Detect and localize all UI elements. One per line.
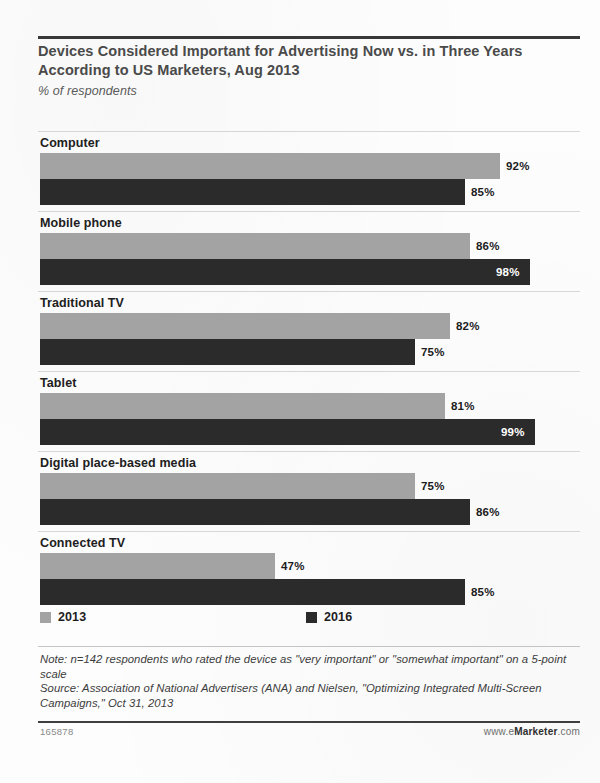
- group-divider: [38, 531, 580, 532]
- chart-group: Connected TV47%85%: [38, 531, 580, 611]
- category-label: Mobile phone: [38, 212, 580, 233]
- bar-2013: [40, 313, 450, 339]
- group-divider: [38, 451, 580, 452]
- bar-group: 81%99%: [38, 393, 580, 451]
- bar-row: 47%: [38, 553, 580, 579]
- chart-title: Devices Considered Important for Adverti…: [38, 42, 580, 79]
- bar-value-label: 92%: [506, 153, 530, 179]
- bar-value-label: 86%: [476, 499, 500, 525]
- chart-plot-area: Computer92%85%Mobile phone86%98%Traditio…: [38, 131, 580, 611]
- bar-value-label: 75%: [421, 473, 445, 499]
- category-label: Tablet: [38, 372, 580, 393]
- bar-row: 99%: [38, 419, 580, 445]
- legend-item-2016: 2016: [306, 610, 352, 624]
- bar-row: 81%: [38, 393, 580, 419]
- bar-row: 85%: [38, 579, 580, 605]
- footer: 165878 www.eMarketer.com: [38, 726, 580, 744]
- bar-group: 86%98%: [38, 233, 580, 291]
- category-label: Traditional TV: [38, 292, 580, 313]
- brand-name: Marketer: [514, 726, 557, 737]
- bar-row: 75%: [38, 339, 580, 365]
- group-divider: [38, 291, 580, 292]
- bar-row: 92%: [38, 153, 580, 179]
- bar-2016: [40, 339, 415, 365]
- bar-value-label: 86%: [476, 233, 500, 259]
- bar-2016: [40, 499, 470, 525]
- bar-2013: [40, 153, 500, 179]
- bar-value-label: 47%: [281, 553, 305, 579]
- group-divider: [38, 131, 580, 132]
- brand-suffix: .com: [558, 726, 580, 737]
- chart-sheet: Devices Considered Important for Adverti…: [38, 0, 580, 783]
- bar-group: 92%85%: [38, 153, 580, 211]
- source-text: Source: Association of National Advertis…: [40, 681, 580, 710]
- bar-2016: [40, 419, 535, 445]
- bar-2013: [40, 553, 275, 579]
- bar-value-label: 75%: [421, 339, 445, 365]
- category-label: Digital place-based media: [38, 452, 580, 473]
- chart-group: Computer92%85%: [38, 131, 580, 211]
- notes-divider: [38, 646, 580, 647]
- bar-row: 98%: [38, 259, 580, 285]
- bar-value-label: 85%: [471, 579, 495, 605]
- top-divider: [38, 36, 580, 39]
- bar-value-label: 82%: [456, 313, 480, 339]
- group-divider: [38, 211, 580, 212]
- bar-value-label: 98%: [496, 259, 520, 285]
- category-label: Connected TV: [38, 532, 580, 553]
- bar-2016: [40, 259, 530, 285]
- legend-swatch-2013: [40, 612, 51, 623]
- group-divider: [38, 371, 580, 372]
- bar-row: 75%: [38, 473, 580, 499]
- legend-label-2016: 2016: [324, 610, 352, 624]
- bar-value-label: 85%: [471, 179, 495, 205]
- notes-block: Note: n=142 respondents who rated the de…: [40, 652, 580, 710]
- bar-row: 85%: [38, 179, 580, 205]
- chart-legend: 2013 2016: [38, 610, 580, 640]
- footer-divider: [38, 721, 580, 723]
- category-label: Computer: [38, 132, 580, 153]
- bar-group: 47%85%: [38, 553, 580, 611]
- brand-prefix: www.e: [484, 726, 514, 737]
- bar-2013: [40, 393, 445, 419]
- bar-row: 86%: [38, 499, 580, 525]
- legend-swatch-2016: [306, 612, 317, 623]
- bar-value-label: 81%: [451, 393, 475, 419]
- bar-group: 75%86%: [38, 473, 580, 531]
- bar-value-label: 99%: [501, 419, 525, 445]
- bar-group: 82%75%: [38, 313, 580, 371]
- chart-group: Mobile phone86%98%: [38, 211, 580, 291]
- legend-item-2013: 2013: [40, 610, 86, 624]
- bar-2013: [40, 473, 415, 499]
- bar-row: 86%: [38, 233, 580, 259]
- bar-2016: [40, 579, 465, 605]
- bar-2016: [40, 179, 465, 205]
- note-text: Note: n=142 respondents who rated the de…: [40, 652, 580, 681]
- bar-2013: [40, 233, 470, 259]
- bar-row: 82%: [38, 313, 580, 339]
- chart-group: Traditional TV82%75%: [38, 291, 580, 371]
- title-block: Devices Considered Important for Adverti…: [38, 42, 580, 98]
- emarketer-brand: www.eMarketer.com: [484, 726, 580, 737]
- chart-subtitle: % of respondents: [38, 84, 580, 98]
- chart-page: Devices Considered Important for Adverti…: [0, 0, 600, 783]
- legend-label-2013: 2013: [58, 610, 86, 624]
- chart-id: 165878: [40, 726, 74, 737]
- chart-group: Tablet81%99%: [38, 371, 580, 451]
- chart-group: Digital place-based media75%86%: [38, 451, 580, 531]
